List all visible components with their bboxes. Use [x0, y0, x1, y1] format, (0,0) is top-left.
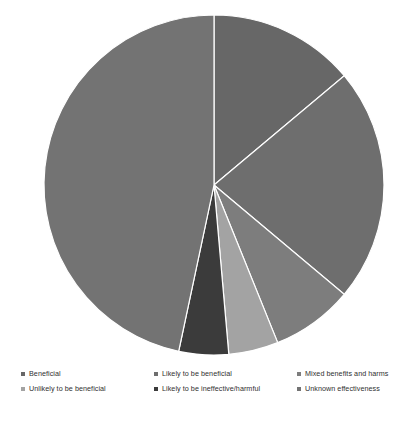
- chart-legend: Beneficial Likely to be beneficial Mixed…: [0, 366, 419, 406]
- legend-swatch-icon: [154, 387, 158, 391]
- legend-item-label: Unknown effectiveness: [305, 385, 380, 392]
- legend-item-unlikely-to-be-beneficial[interactable]: Unlikely to be beneficial: [21, 381, 154, 396]
- legend-item-label: Mixed benefits and harms: [305, 370, 389, 377]
- pie-chart-plot-area: [0, 0, 419, 362]
- legend-item-label: Likely to be beneficial: [162, 370, 232, 377]
- legend-swatch-icon: [154, 372, 158, 376]
- legend-swatch-icon: [297, 372, 301, 376]
- legend-item-beneficial[interactable]: Beneficial: [21, 366, 154, 381]
- pie-chart-svg: [0, 0, 419, 362]
- legend-item-label: Likely to be ineffective/harmful: [162, 385, 260, 392]
- legend-item-likely-to-be-beneficial[interactable]: Likely to be beneficial: [154, 366, 297, 381]
- pie-chart-figure: Beneficial Likely to be beneficial Mixed…: [0, 0, 419, 430]
- legend-swatch-icon: [21, 387, 25, 391]
- legend-item-label: Unlikely to be beneficial: [29, 385, 106, 392]
- legend-item-label: Beneficial: [29, 370, 61, 377]
- legend-swatch-icon: [297, 387, 301, 391]
- pie-slice-group: [44, 15, 384, 355]
- legend-item-unknown-effectiveness[interactable]: Unknown effectiveness: [297, 381, 419, 396]
- legend-item-likely-to-be-ineffective-harmful[interactable]: Likely to be ineffective/harmful: [154, 381, 297, 396]
- pie-slice[interactable]: [44, 15, 214, 351]
- legend-item-mixed-benefits-and-harms[interactable]: Mixed benefits and harms: [297, 366, 419, 381]
- legend-swatch-icon: [21, 372, 25, 376]
